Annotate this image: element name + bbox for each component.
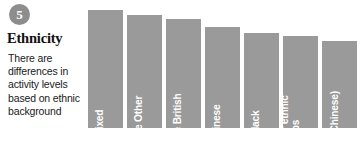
bar-category-label: Mixed xyxy=(95,110,106,128)
bar[interactable]: Black xyxy=(244,33,279,128)
bar[interactable]: Other ethnic groups xyxy=(283,36,318,128)
ethnicity-infographic: 5 Ethnicity There are differences in act… xyxy=(0,0,363,153)
bar[interactable]: White Other xyxy=(127,15,162,128)
page-title: Ethnicity xyxy=(7,31,62,46)
bar-category-label: Other ethnic groups xyxy=(283,95,301,128)
bar-category-label: Asian (excl Chinese) xyxy=(322,91,340,128)
bar-category-label: White British xyxy=(173,94,184,128)
bar-category-label: Chinese xyxy=(212,105,223,128)
bar-category-label: Black xyxy=(251,111,262,128)
bar-group[interactable]: 58%Chinese xyxy=(205,27,240,144)
step-number-badge: 5 xyxy=(9,4,30,25)
bar[interactable]: Chinese xyxy=(205,27,240,128)
info-panel: 5 Ethnicity There are differences in act… xyxy=(6,0,86,153)
bar-group[interactable]: 65%White Other xyxy=(127,15,162,144)
bar-category-label: White Other xyxy=(134,96,145,128)
bar[interactable]: White British xyxy=(166,19,201,128)
bar-group[interactable]: 50%Asian (excl Chinese) xyxy=(322,41,357,144)
panel-description: There are differences in activity levels… xyxy=(8,52,90,118)
ethnicity-bar-chart: 68%Mixed65%White Other63%White British58… xyxy=(88,0,363,153)
bar-group[interactable]: 68%Mixed xyxy=(88,10,123,144)
bar-group[interactable]: 53%Other ethnic groups xyxy=(283,36,318,144)
bar[interactable]: Asian (excl Chinese) xyxy=(322,41,357,128)
bar-group[interactable]: 63%White British xyxy=(166,19,201,144)
bar[interactable]: Mixed xyxy=(88,10,123,128)
bar-group[interactable]: 55%Black xyxy=(244,33,279,144)
